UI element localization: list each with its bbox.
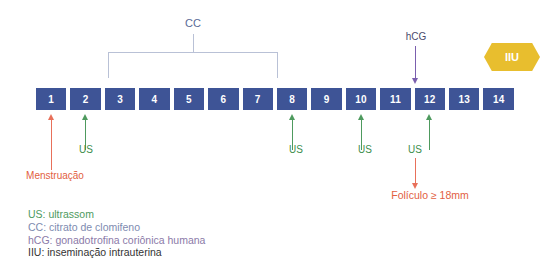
day-box-2[interactable]: 2 bbox=[70, 88, 100, 110]
day-box-13[interactable]: 13 bbox=[449, 88, 479, 110]
us-day-2-label: US bbox=[71, 144, 101, 155]
day-box-3[interactable]: 3 bbox=[105, 88, 135, 110]
us-day-8-label: US bbox=[281, 144, 311, 155]
day-box-5[interactable]: 5 bbox=[174, 88, 204, 110]
legend-item-1: CC: citrato de clomifeno bbox=[28, 221, 205, 234]
cycle-timeline-diagram: CC hCG IIU 1234567891011121314 Menstruaç… bbox=[0, 0, 556, 262]
menstruacao-label: Menstruação bbox=[0, 170, 110, 181]
foliculo-arrow-stem bbox=[415, 158, 416, 184]
legend-item-2: hCG: gonadotrofina coriônica humana bbox=[28, 234, 205, 247]
us-day-10-label: US bbox=[350, 144, 380, 155]
day-box-14[interactable]: 14 bbox=[483, 88, 513, 110]
us-day-12-label: US bbox=[400, 144, 430, 155]
foliculo-label: Folículo ≥ 18mm bbox=[360, 189, 500, 201]
legend-item-3: IIU: inseminação intrauterina bbox=[28, 246, 205, 259]
cc-bracket bbox=[108, 52, 278, 78]
day-box-9[interactable]: 9 bbox=[311, 88, 341, 110]
timeline-day-row: 1234567891011121314 bbox=[36, 88, 514, 110]
day-box-12[interactable]: 12 bbox=[415, 88, 445, 110]
day-box-4[interactable]: 4 bbox=[139, 88, 169, 110]
day-box-1[interactable]: 1 bbox=[36, 88, 66, 110]
day-box-8[interactable]: 8 bbox=[277, 88, 307, 110]
day-box-7[interactable]: 7 bbox=[243, 88, 273, 110]
legend: US: ultrassomCC: citrato de clomifenohCG… bbox=[28, 208, 205, 259]
day-box-6[interactable]: 6 bbox=[208, 88, 238, 110]
hcg-arrow-head-icon bbox=[412, 78, 418, 84]
day-box-11[interactable]: 11 bbox=[380, 88, 410, 110]
hcg-label: hCG bbox=[396, 31, 436, 42]
iiu-badge: IIU bbox=[484, 43, 540, 71]
legend-item-0: US: ultrassom bbox=[28, 208, 205, 221]
iiu-badge-label: IIU bbox=[505, 51, 519, 63]
cc-bracket-label: CC bbox=[175, 17, 211, 29]
cc-bracket-stem bbox=[193, 34, 194, 53]
menstruacao-arrow-stem bbox=[51, 120, 52, 170]
day-box-10[interactable]: 10 bbox=[346, 88, 376, 110]
hcg-arrow-stem bbox=[415, 46, 416, 79]
